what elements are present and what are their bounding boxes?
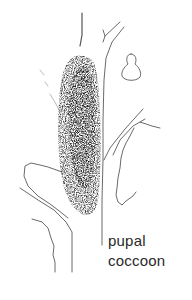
label-pupal: pupal (108, 231, 146, 250)
coccoon-shape (58, 56, 100, 215)
label-coccoon: coccoon (108, 251, 165, 270)
